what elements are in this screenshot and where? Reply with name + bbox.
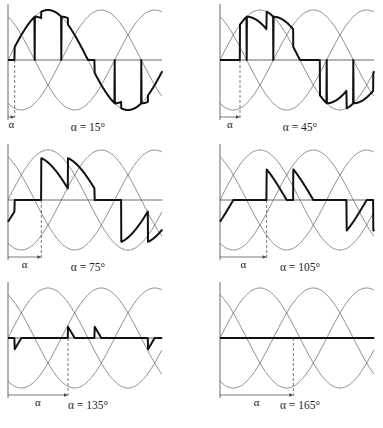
panel-caption: α = 15° <box>71 121 105 133</box>
arrowhead-icon <box>64 393 68 396</box>
arrowhead-icon <box>37 255 41 258</box>
waveform-figure: α α = 15° α α = 45° α α = 75° α α = 105°… <box>0 0 383 428</box>
alpha-marker-label: α <box>254 396 260 408</box>
output-voltage-waveform <box>8 327 162 349</box>
arrowhead-icon <box>236 115 240 118</box>
alpha-marker-label: α <box>8 118 14 130</box>
panel-alpha-75: α α = 75° <box>0 140 190 282</box>
alpha-marker-label: α <box>35 396 41 408</box>
alpha-marker-label: α <box>240 258 246 270</box>
panel-alpha-165: α α = 165° <box>212 278 383 420</box>
arrowhead-icon <box>289 393 293 396</box>
panel-alpha-15: α α = 15° <box>0 0 190 142</box>
panel-alpha-135: α α = 135° <box>0 278 190 420</box>
panel-alpha-105: α α = 105° <box>212 140 383 282</box>
alpha-marker-label: α <box>227 118 233 130</box>
panel-caption: α = 75° <box>71 261 105 273</box>
panel-caption: α = 165° <box>280 399 320 411</box>
panel-caption: α = 105° <box>280 261 320 273</box>
panel-caption: α = 45° <box>283 121 317 133</box>
panel-caption: α = 135° <box>68 399 108 411</box>
arrowhead-icon <box>263 255 267 258</box>
alpha-marker-label: α <box>22 258 28 270</box>
panel-alpha-45: α α = 45° <box>212 0 383 142</box>
